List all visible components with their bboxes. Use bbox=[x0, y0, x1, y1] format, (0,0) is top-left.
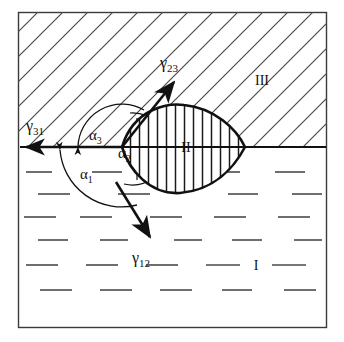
region-three-label: III bbox=[255, 73, 269, 88]
region-two-label: II bbox=[181, 140, 191, 155]
region-one-label: I bbox=[254, 258, 259, 273]
diagram-svg: γ31 γ23 γ12 α3 α2 α1 III II I bbox=[0, 0, 344, 342]
figure-canvas: γ31 γ23 γ12 α3 α2 α1 III II I bbox=[0, 0, 344, 342]
